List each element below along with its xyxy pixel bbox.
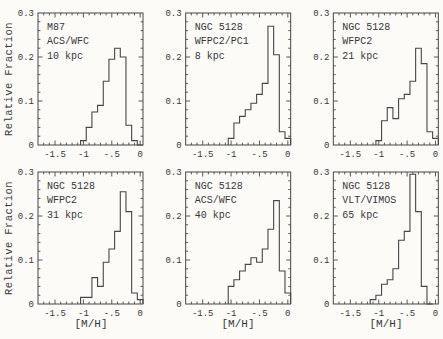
histogram-panel-4: -1.5-1-.5000.10.20.3NGC 5128WFPC231 kpc	[18, 168, 143, 318]
x-tick-label: -1.5	[44, 150, 66, 160]
panel-frame	[38, 172, 143, 304]
panel-frame	[186, 172, 291, 304]
y-tick-label: 0	[29, 300, 34, 310]
panel-annotation: 10 kpc	[47, 51, 83, 62]
y-tick-label: 0.1	[18, 97, 34, 107]
x-tick-label: 0	[285, 309, 290, 319]
x-tick-label: -1	[78, 150, 89, 160]
y-tick-label: 0.3	[18, 168, 34, 178]
x-tick-label: 0	[433, 150, 438, 160]
histogram-outline	[81, 192, 143, 304]
panel-annotation: WFPC2	[342, 36, 372, 47]
y-tick-label: 0.1	[165, 97, 181, 107]
y-tick-label: 0.3	[165, 9, 181, 19]
y-tick-label: 0.2	[165, 53, 181, 63]
y-tick-label: 0.3	[313, 9, 329, 19]
x-tick-label: -1	[226, 150, 237, 160]
y-tick-label: 0.3	[165, 168, 181, 178]
panel-frame	[186, 13, 291, 145]
panel-annotation: ACS/WFC	[195, 195, 237, 206]
histogram-panel-6: -1.5-1-.5000.10.20.3NGC 5128VLT/VIMOS65 …	[313, 168, 438, 318]
histogram-panel-5: -1.5-1-.5000.10.20.3NGC 5128ACS/WFC40 kp…	[165, 168, 290, 318]
panel-annotation: NGC 5128	[195, 181, 243, 192]
panel-annotation: WFPC2	[47, 195, 77, 206]
panel-annotation: 8 kpc	[195, 51, 225, 62]
y-tick-label: 0.2	[313, 212, 329, 222]
histogram-outline	[228, 201, 290, 304]
panel-annotation: 65 kpc	[342, 210, 378, 221]
x-tick-label: -.5	[399, 150, 415, 160]
panel-annotation: 31 kpc	[47, 210, 83, 221]
x-axis-title-middle: [M/H]	[208, 317, 268, 331]
x-tick-label: 0	[285, 150, 290, 160]
y-tick-label: 0	[324, 141, 329, 151]
y-tick-label: 0	[29, 141, 34, 151]
panel-annotation: M87	[47, 22, 65, 33]
y-tick-label: 0.1	[313, 97, 329, 107]
y-axis-title-bottom-row: Relative Fraction	[2, 158, 16, 318]
y-tick-label: 0.1	[313, 256, 329, 266]
histogram-outline	[376, 48, 438, 145]
x-tick-label: -1	[373, 150, 384, 160]
y-axis-title-top-row: Relative Fraction	[2, 0, 16, 159]
panel-annotation: NGC 5128	[342, 22, 390, 33]
y-tick-label: 0.2	[18, 53, 34, 63]
panel-annotation: NGC 5128	[195, 22, 243, 33]
y-tick-label: 0.2	[18, 212, 34, 222]
metallicity-histogram-figure: -1.5-1-.5000.10.20.3M87ACS/WFC10 kpc-1.5…	[0, 0, 443, 339]
histogram-panel-3: -1.5-1-.5000.10.20.3NGC 5128WFPC221 kpc	[313, 9, 438, 159]
y-tick-label: 0	[176, 300, 181, 310]
panel-annotation: NGC 5128	[47, 181, 95, 192]
panel-annotation: NGC 5128	[342, 181, 390, 192]
y-tick-label: 0.2	[165, 212, 181, 222]
x-tick-label: -1.5	[340, 150, 362, 160]
y-tick-label: 0.1	[18, 256, 34, 266]
panel-frame	[333, 13, 438, 145]
panel-annotation: WFPC2/PC1	[195, 36, 249, 47]
x-tick-label: -.5	[251, 150, 267, 160]
x-axis-title-right: [M/H]	[356, 317, 416, 331]
figure-svg: -1.5-1-.5000.10.20.3M87ACS/WFC10 kpc-1.5…	[0, 0, 443, 339]
y-tick-label: 0	[324, 300, 329, 310]
y-tick-label: 0.2	[313, 53, 329, 63]
histogram-outline	[81, 48, 143, 145]
x-tick-label: -.5	[104, 150, 120, 160]
panel-annotation: 40 kpc	[195, 210, 231, 221]
x-tick-label: 0	[433, 309, 438, 319]
x-tick-label: 0	[137, 150, 142, 160]
panel-annotation: VLT/VIMOS	[342, 195, 396, 206]
y-tick-label: 0.1	[165, 256, 181, 266]
x-tick-label: 0	[137, 309, 142, 319]
histogram-panel-2: -1.5-1-.5000.10.20.3NGC 5128WFPC2/PC18 k…	[165, 9, 290, 159]
y-tick-label: 0.3	[18, 9, 34, 19]
x-tick-label: -1.5	[192, 150, 214, 160]
panel-annotation: 21 kpc	[342, 51, 378, 62]
x-axis-title-left: [M/H]	[61, 317, 121, 331]
histogram-outline	[370, 174, 432, 304]
histogram-panel-1: -1.5-1-.5000.10.20.3M87ACS/WFC10 kpc	[18, 9, 143, 159]
y-tick-label: 0	[176, 141, 181, 151]
y-tick-label: 0.3	[313, 168, 329, 178]
panel-annotation: ACS/WFC	[47, 36, 89, 47]
